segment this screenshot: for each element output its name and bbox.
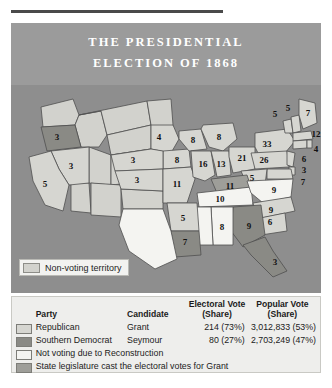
label-virginia: 9 (272, 185, 277, 195)
header-popular-vote-line-2: (Share) (249, 310, 316, 320)
header-popular-vote: Popular Vote (Share) (249, 300, 316, 321)
row-party: Southern Democrat (36, 334, 127, 347)
label-missouri: 11 (173, 179, 182, 189)
label-alabama: 8 (220, 222, 225, 232)
republican-swatch-icon (16, 324, 32, 334)
label-north-carolina: 9 (269, 205, 274, 215)
label-georgia: 9 (247, 221, 252, 231)
label-kansas: 3 (135, 175, 140, 185)
label-rhode-island: 6 (302, 154, 307, 164)
label-maine: 7 (306, 108, 311, 118)
row-party: Republican (36, 321, 127, 334)
header-party: Party (36, 300, 127, 321)
state-pennsylvania (251, 151, 289, 169)
election-map-figure: THE PRESIDENTIAL ELECTION OF 1868 (0, 0, 332, 388)
label-delaware: 3 (302, 165, 307, 175)
table-header-row: Party Candidate Electoral Vote (Share) P… (16, 300, 316, 321)
state-oregon (41, 125, 81, 151)
row-swatch-cell (16, 360, 36, 373)
row-candidate: Grant (127, 321, 185, 334)
legend-state-legislature-label: State legislature cast the electoral vot… (36, 360, 316, 373)
non-voting-territory-label: Non-voting territory (45, 263, 122, 273)
page-title-line-2: ELECTION OF 1868 (11, 56, 321, 71)
results-table-body: Republican Grant 214 (73%) 3,012,833 (53… (16, 321, 316, 373)
label-pennsylvania: 26 (260, 155, 270, 165)
state-rhode-island (307, 140, 312, 148)
header-candidate: Candidate (127, 300, 185, 321)
row-swatch-cell (16, 347, 36, 360)
non-voting-territory-swatch-icon (23, 263, 40, 273)
results-table-head: Party Candidate Electoral Vote (Share) P… (16, 300, 316, 321)
state-arizona-territory (71, 183, 91, 213)
state-washington-territory (41, 99, 79, 127)
title-banner: THE PRESIDENTIAL ELECTION OF 1868 (11, 23, 321, 85)
header-swatch-spacer (16, 300, 36, 321)
southern-democrat-swatch-icon (16, 337, 32, 347)
map-legend-non-voting-territory: Non-voting territory (19, 259, 129, 276)
label-connecticut: 4 (314, 144, 319, 154)
results-table: Party Candidate Electoral Vote (Share) P… (16, 300, 316, 373)
label-ohio: 21 (238, 153, 248, 163)
state-new-jersey (287, 151, 295, 167)
state-indian-territory (121, 189, 163, 209)
legend-row: State legislature cast the electoral vot… (16, 360, 316, 373)
label-nevada: 3 (69, 161, 74, 171)
not-voting-swatch-icon (16, 350, 32, 360)
row-candidate: Seymour (127, 334, 185, 347)
results-table-panel: Party Candidate Electoral Vote (Share) P… (11, 296, 321, 373)
label-california: 5 (43, 179, 48, 189)
label-tennessee: 10 (216, 194, 226, 204)
label-kentucky: 11 (226, 181, 235, 191)
legend-row: Not voting due to Reconstruction (16, 347, 316, 360)
label-oregon: 3 (55, 132, 60, 142)
label-indiana: 13 (217, 159, 227, 169)
label-south-carolina: 6 (268, 217, 273, 227)
label-minnesota: 4 (157, 132, 162, 142)
label-iowa: 8 (175, 155, 180, 165)
state-florida (243, 237, 287, 277)
state-minnesota (151, 125, 179, 153)
state-massachusetts (293, 131, 313, 141)
page-title-line-1: THE PRESIDENTIAL (11, 35, 321, 50)
table-row: Republican Grant 214 (73%) 3,012,833 (53… (16, 321, 316, 334)
label-illinois: 16 (199, 159, 209, 169)
label-wisconsin: 8 (191, 135, 196, 145)
label-arkansas: 5 (181, 213, 186, 223)
state-maryland (267, 169, 293, 179)
map-panel: 3 3 5 4 8 3 3 11 8 8 16 13 21 5 5 7 33 1… (11, 85, 321, 293)
label-vermont: 5 (273, 109, 278, 119)
label-nebraska: 3 (131, 155, 136, 165)
title-divider-rule (11, 10, 223, 13)
state-utah-territory (89, 147, 111, 185)
row-popular-vote: 2,703,249 (47%) (249, 334, 316, 347)
label-louisiana: 7 (183, 237, 188, 247)
label-michigan: 8 (217, 132, 222, 142)
header-electoral-vote: Electoral Vote (Share) (185, 300, 248, 321)
state-new-mexico-territory (91, 183, 121, 217)
table-row: Southern Democrat Seymour 80 (27%) 2,703… (16, 334, 316, 347)
row-electoral-vote: 214 (73%) (185, 321, 248, 334)
label-new-hampshire: 5 (286, 103, 291, 113)
label-florida: 3 (273, 257, 278, 267)
row-swatch-cell (16, 321, 36, 334)
row-swatch-cell (16, 334, 36, 347)
row-electoral-vote: 80 (27%) (185, 334, 248, 347)
label-massachusetts: 12 (312, 129, 322, 139)
legend-not-voting-label: Not voting due to Reconstruction (36, 347, 316, 360)
label-west-virginia: 5 (250, 173, 255, 183)
header-electoral-vote-line-2: (Share) (185, 310, 248, 320)
row-popular-vote: 3,012,833 (53%) (249, 321, 316, 334)
label-new-york: 33 (263, 139, 273, 149)
label-maryland: 7 (301, 177, 306, 187)
state-connecticut (293, 140, 307, 149)
state-legislature-swatch-icon (16, 363, 32, 373)
